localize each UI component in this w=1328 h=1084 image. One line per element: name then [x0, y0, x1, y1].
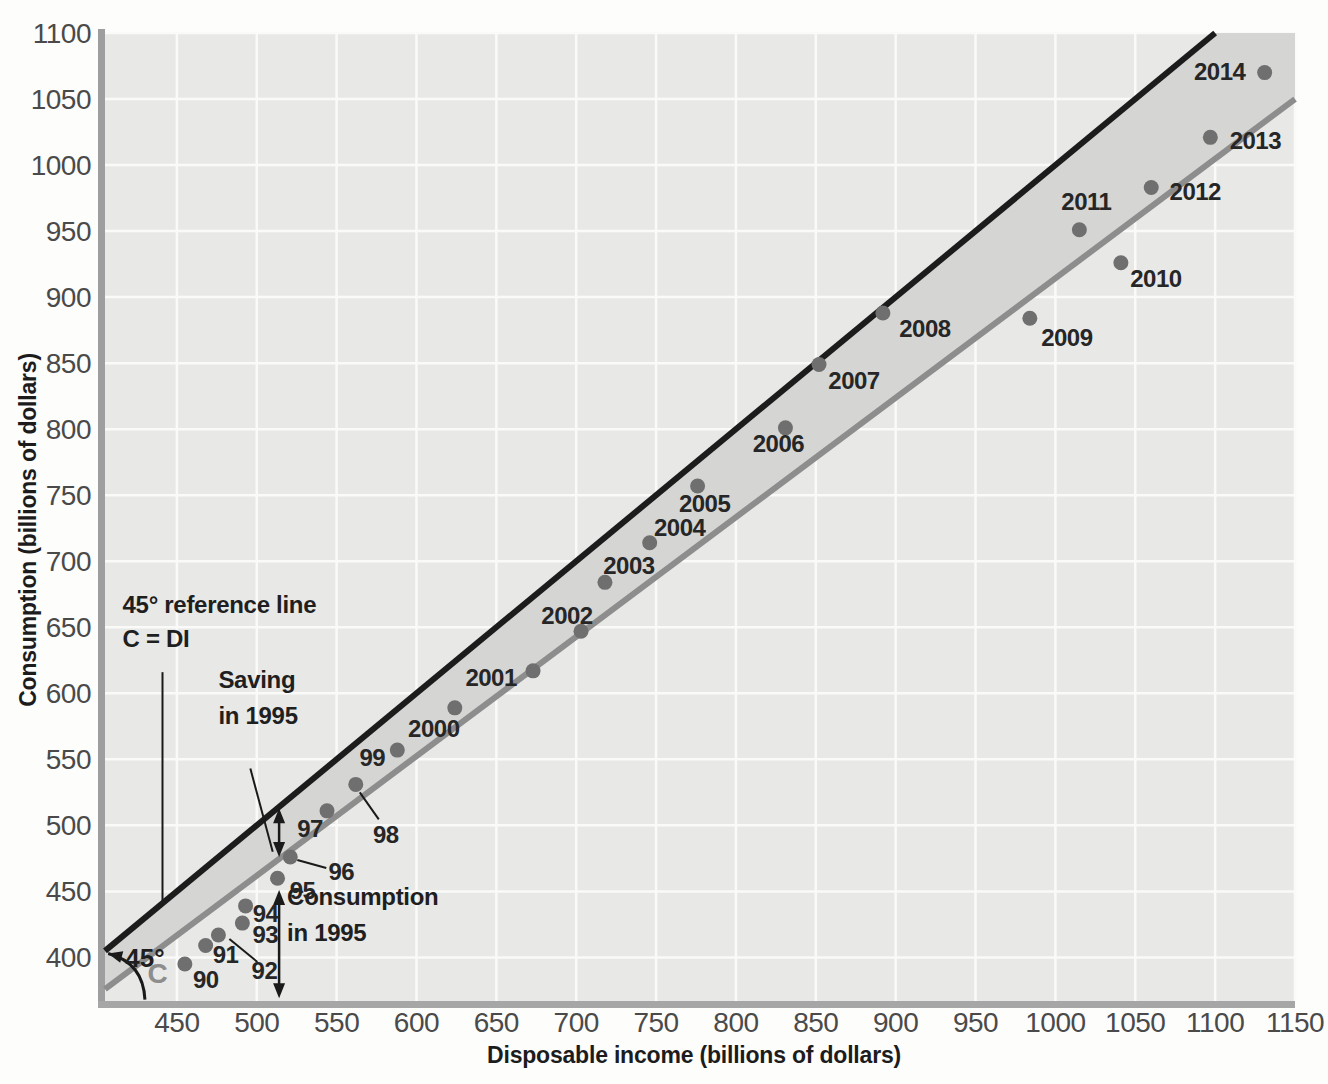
consumption-line-label: C: [148, 958, 168, 989]
y-tick-label: 900: [46, 282, 91, 313]
year-label-99: 99: [359, 744, 385, 771]
year-label-2000: 2000: [408, 715, 460, 742]
data-point-2000: [447, 700, 462, 715]
data-point-2008: [875, 305, 890, 320]
data-point-93: [235, 916, 250, 931]
data-point-94: [238, 898, 253, 913]
data-point-96: [283, 850, 298, 865]
y-tick-label: 400: [46, 942, 91, 973]
reference-line-label: C = DI: [123, 625, 190, 652]
year-label-94: 94: [253, 900, 280, 927]
x-tick-label: 850: [793, 1007, 838, 1038]
consumption-label: in 1995: [287, 919, 366, 946]
data-point-2007: [812, 357, 827, 372]
year-label-96: 96: [328, 858, 354, 885]
x-tick-label: 1000: [1025, 1007, 1085, 1038]
y-tick-label: 550: [46, 744, 91, 775]
data-point-91: [198, 938, 213, 953]
y-tick-label: 950: [46, 216, 91, 247]
year-label-97: 97: [297, 815, 323, 842]
year-label-2001: 2001: [465, 664, 517, 691]
y-tick-label: 600: [46, 678, 91, 709]
year-label-95: 95: [290, 877, 316, 904]
x-tick-label: 500: [234, 1007, 279, 1038]
x-tick-label: 900: [873, 1007, 918, 1038]
data-point-2011: [1072, 222, 1087, 237]
y-axis-line: [98, 29, 105, 1008]
data-point-2012: [1144, 180, 1159, 195]
year-label-2014: 2014: [1194, 58, 1247, 85]
year-label-90: 90: [193, 966, 219, 993]
data-point-2010: [1113, 255, 1128, 270]
x-tick-label: 450: [154, 1007, 199, 1038]
y-axis-title: Consumption (billions of dollars): [15, 353, 41, 707]
year-label-2006: 2006: [753, 430, 805, 457]
x-tick-label: 700: [554, 1007, 599, 1038]
x-tick-label: 750: [633, 1007, 678, 1038]
reference-line-label: 45° reference line: [123, 591, 317, 618]
year-label-98: 98: [373, 821, 399, 848]
data-point-90: [177, 957, 192, 972]
year-label-2004: 2004: [654, 514, 707, 541]
year-label-2005: 2005: [679, 490, 731, 517]
year-label-92: 92: [252, 957, 278, 984]
x-tick-label: 550: [314, 1007, 359, 1038]
x-tick-label: 600: [394, 1007, 439, 1038]
y-tick-label: 700: [46, 546, 91, 577]
year-label-2009: 2009: [1041, 324, 1093, 351]
year-label-2003: 2003: [603, 552, 655, 579]
data-point-98: [348, 777, 363, 792]
chart-generated-layers: 4505005506006507007508008509009501000105…: [31, 18, 1324, 1038]
y-tick-label: 650: [46, 612, 91, 643]
saving-label: Saving: [218, 666, 295, 693]
y-tick-label: 1000: [31, 150, 91, 181]
data-point-2013: [1203, 130, 1218, 145]
x-axis-title: Disposable income (billions of dollars): [487, 1042, 901, 1068]
data-point-2009: [1022, 311, 1037, 326]
y-tick-label: 850: [46, 348, 91, 379]
data-point-99: [390, 743, 405, 758]
y-tick-label: 1100: [33, 18, 91, 49]
data-point-2001: [526, 663, 541, 678]
y-tick-label: 450: [46, 876, 91, 907]
year-label-2010: 2010: [1130, 265, 1182, 292]
x-tick-label: 800: [713, 1007, 758, 1038]
x-tick-label: 1150: [1266, 1007, 1324, 1038]
consumption-chart: 4505005506006507007508008509009501000105…: [0, 0, 1328, 1084]
year-label-2012: 2012: [1170, 178, 1222, 205]
year-label-2002: 2002: [541, 602, 593, 629]
data-point-95: [270, 871, 285, 886]
y-tick-label: 800: [46, 414, 91, 445]
saving-label: in 1995: [218, 702, 297, 729]
y-tick-label: 500: [46, 810, 91, 841]
data-point-92: [211, 927, 226, 942]
year-label-2013: 2013: [1230, 127, 1282, 154]
year-label-2007: 2007: [828, 367, 880, 394]
data-point-2014: [1257, 65, 1272, 80]
y-tick-label: 750: [46, 480, 91, 511]
x-tick-label: 950: [953, 1007, 998, 1038]
year-label-2008: 2008: [899, 315, 951, 342]
x-tick-label: 650: [474, 1007, 519, 1038]
x-tick-label: 1050: [1105, 1007, 1165, 1038]
consumption-income-figure: 4505005506006507007508008509009501000105…: [0, 0, 1328, 1084]
year-label-2011: 2011: [1061, 188, 1111, 215]
x-tick-label: 1100: [1186, 1007, 1244, 1038]
y-tick-label: 1050: [31, 84, 91, 115]
